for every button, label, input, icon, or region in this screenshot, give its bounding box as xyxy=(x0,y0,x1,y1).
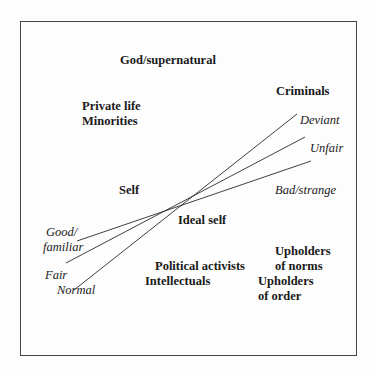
pole-bad-strange: Bad/strange xyxy=(275,183,336,197)
pole-deviant: Deviant xyxy=(300,113,340,127)
label-intellectuals: Intellectuals xyxy=(145,274,210,288)
label-criminals: Criminals xyxy=(276,84,329,98)
pole-fair: Fair xyxy=(45,268,67,282)
pole-good-line1: Good/ xyxy=(46,225,77,239)
label-ideal-self: Ideal self xyxy=(178,213,226,227)
label-private-life: Private life xyxy=(82,99,141,113)
label-upholders-of-order-line2: of order xyxy=(258,289,301,303)
label-minorities: Minorities xyxy=(82,114,138,128)
label-political-activists: Political activists xyxy=(155,259,245,273)
label-upholders-of-norms-line2: of norms xyxy=(275,259,323,273)
axis-unfair-fair xyxy=(66,137,305,263)
label-upholders-of-norms-line1: Upholders xyxy=(275,244,331,258)
pole-normal: Normal xyxy=(57,283,95,297)
axis-bad-good xyxy=(77,161,311,241)
label-self: Self xyxy=(119,183,139,197)
label-god-supernatural: God/supernatural xyxy=(120,53,216,67)
pole-good-line2: familiar xyxy=(43,240,83,254)
pole-unfair: Unfair xyxy=(310,141,343,155)
label-upholders-of-order-line1: Upholders xyxy=(258,274,314,288)
